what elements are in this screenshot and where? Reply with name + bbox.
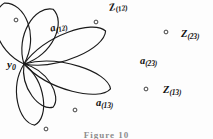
label-a-23: a(23) xyxy=(140,56,157,68)
petal-right-upper xyxy=(24,27,106,65)
label-z-23-subscript: (23) xyxy=(187,32,199,41)
petal-right-upper-marker-dot xyxy=(164,30,168,34)
label-z-23: Z(23) xyxy=(181,29,199,41)
petal-upper-right-marker-dot xyxy=(94,20,98,24)
label-z-13: Z(13) xyxy=(163,85,181,97)
label-a-13-subscript: (13) xyxy=(101,101,113,110)
petal-dot-group xyxy=(14,18,168,131)
label-base-point: y0 xyxy=(7,59,16,72)
petal-right-lower xyxy=(24,61,111,94)
petal-lower-left-outer xyxy=(17,64,44,125)
loops-diagram-svg xyxy=(0,0,213,139)
label-base-point-subscript: 0 xyxy=(12,63,16,72)
petal-right-lower-marker-dot xyxy=(144,87,148,91)
figure-caption: Figure 10 xyxy=(0,131,213,139)
label-z-13-subscript: (13) xyxy=(169,88,181,97)
figure-container: a(12)Z(12)Z(23)a(23)Z(13)a(13)y0 Figure … xyxy=(0,0,213,139)
petal-lower-left-inner-marker-dot xyxy=(73,108,77,112)
label-a-23-subscript: (23) xyxy=(145,59,157,68)
petal-upper-left xyxy=(0,3,31,64)
petal-upper-left-marker-dot xyxy=(14,18,18,22)
label-a-13: a(13) xyxy=(96,98,113,110)
